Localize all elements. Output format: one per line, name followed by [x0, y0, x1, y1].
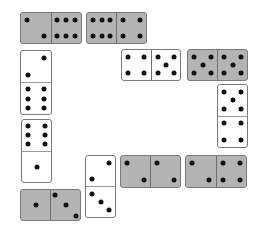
pip-dot [155, 160, 160, 165]
domino-half-4 [216, 156, 247, 187]
pip-dot [238, 71, 243, 76]
pip-dot [171, 71, 176, 76]
domino-half-3 [86, 186, 115, 217]
pip-dot [200, 63, 205, 68]
pip-dot [73, 213, 78, 218]
pip-dot [26, 124, 31, 129]
pip-dot [53, 192, 58, 197]
pip-dot [237, 178, 242, 183]
pip-dot [73, 17, 78, 22]
pip-dot [106, 160, 111, 165]
pip-dot [125, 160, 130, 165]
domino-half-1 [22, 151, 51, 183]
pip-dot [230, 98, 235, 103]
pip-dot [192, 71, 197, 76]
pip-dot [238, 138, 243, 143]
domino-half-2 [150, 156, 180, 187]
domino-6-1 [21, 119, 52, 183]
pip-dot [171, 54, 176, 59]
domino-half-5 [217, 50, 247, 80]
pip-dot [26, 142, 31, 147]
pip-dot [230, 63, 235, 68]
pip-dot [137, 17, 142, 22]
pip-dot [55, 17, 60, 22]
pip-dot [192, 54, 197, 59]
pip-dot [108, 34, 113, 39]
pip-dot [25, 96, 30, 101]
domino-half-4 [218, 116, 247, 148]
pip-dot [222, 89, 227, 94]
pip-dot [99, 17, 104, 22]
pip-dot [73, 34, 78, 39]
pip-dot [33, 203, 38, 208]
domino-half-2 [21, 13, 51, 43]
domino-half-2 [121, 156, 150, 187]
pip-dot [155, 54, 160, 59]
pip-dot [90, 177, 95, 182]
pip-dot [208, 71, 213, 76]
domino-half-3 [50, 190, 80, 220]
pip-dot [238, 121, 243, 126]
pip-dot [42, 133, 47, 138]
pip-dot [25, 87, 30, 92]
pip-dot [238, 106, 243, 111]
pip-dot [208, 54, 213, 59]
pip-dot [220, 178, 225, 183]
domino-half-4 [122, 50, 151, 80]
pip-dot [63, 203, 68, 208]
domino-2-2 [120, 155, 181, 188]
pip-dot [106, 208, 111, 213]
pip-dot [42, 105, 47, 110]
domino-half-6 [51, 13, 82, 43]
pip-dot [26, 133, 31, 138]
pip-dot [55, 34, 60, 39]
pip-dot [142, 71, 147, 76]
pip-dot [207, 178, 212, 183]
pip-dot [137, 34, 142, 39]
pip-dot [99, 34, 104, 39]
pip-dot [42, 124, 47, 129]
pip-dot [222, 106, 227, 111]
domino-4-5 [121, 49, 181, 81]
pip-dot [90, 34, 95, 39]
domino-half-4 [116, 13, 146, 43]
pip-dot [108, 17, 113, 22]
pip-dot [25, 17, 30, 22]
pip-dot [121, 17, 126, 22]
pip-dot [190, 160, 195, 165]
pip-dot [238, 54, 243, 59]
domino-half-2 [186, 156, 216, 187]
pip-dot [25, 105, 30, 110]
pip-dot [142, 54, 147, 59]
pip-dot [90, 191, 95, 196]
domino-half-2 [21, 51, 51, 82]
pip-dot [171, 178, 176, 183]
domino-2-3 [85, 155, 116, 218]
domino-half-2 [86, 156, 115, 186]
domino-5-4 [217, 84, 248, 148]
pip-dot [141, 178, 146, 183]
pip-dot [222, 138, 227, 143]
pip-dot [220, 160, 225, 165]
pip-dot [238, 89, 243, 94]
pip-dot [90, 17, 95, 22]
pip-dot [42, 96, 47, 101]
pip-dot [42, 34, 47, 39]
pip-dot [42, 87, 47, 92]
domino-2-4 [185, 155, 247, 188]
pip-dot [126, 54, 131, 59]
pip-dot [121, 34, 126, 39]
pip-dot [222, 54, 227, 59]
domino-half-6 [22, 120, 51, 151]
pip-dot [237, 160, 242, 165]
domino-half-5 [218, 85, 247, 116]
pip-dot [64, 17, 69, 22]
pip-dot [34, 164, 39, 169]
domino-2-6 [20, 12, 82, 44]
pip-dot [64, 34, 69, 39]
pip-dot [42, 142, 47, 147]
pip-dot [163, 63, 168, 68]
domino-half-5 [188, 50, 217, 80]
pip-dot [42, 55, 47, 60]
domino-5-5 [187, 49, 248, 81]
